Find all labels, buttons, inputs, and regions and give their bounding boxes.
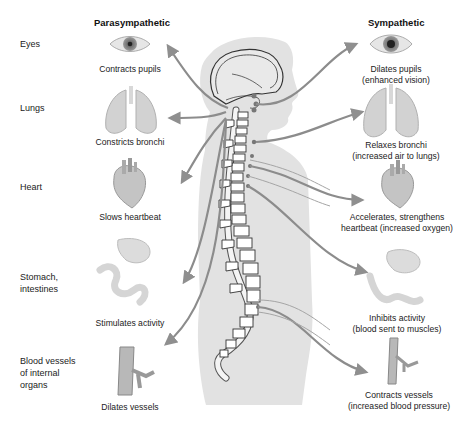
organ-label-blood-vessels: Blood vessels of internal organs xyxy=(20,355,76,391)
parasympathetic-caption-lungs: Constricts bronchi xyxy=(82,137,178,148)
parasympathetic-caption-stomach: Stimulates activity xyxy=(82,318,178,329)
blood-vessel-icon-sympathetic xyxy=(388,338,418,384)
organ-label-lungs: Lungs xyxy=(20,102,45,114)
eye-icon-parasympathetic xyxy=(110,37,150,52)
parasympathetic-caption-heart: Slows heartbeat xyxy=(82,212,178,223)
lungs-icon-parasympathetic xyxy=(106,86,157,133)
organ-label-stomach-intestines: Stomach, intestines xyxy=(20,271,58,295)
sympathetic-caption-eyes: Dilates pupils (enhanced vision) xyxy=(336,64,456,86)
heart-icon-parasympathetic xyxy=(114,158,146,208)
parasympathetic-caption-eyes: Contracts pupils xyxy=(82,64,178,75)
stomach-intestines-icon-sympathetic xyxy=(370,250,420,302)
blood-vessel-icon-parasympathetic xyxy=(118,347,154,395)
parasympathetic-caption-blood-vessels: Dilates vessels xyxy=(82,402,178,413)
eye-icon-sympathetic xyxy=(370,35,412,53)
organ-label-heart: Heart xyxy=(20,181,42,193)
lungs-icon-sympathetic xyxy=(364,84,419,137)
sympathetic-header: Sympathetic xyxy=(368,17,425,28)
sympathetic-caption-blood-vessels: Contracts vessels (increased blood press… xyxy=(330,390,468,412)
stomach-intestines-icon-parasympathetic xyxy=(100,239,150,303)
sympathetic-caption-lungs: Relaxes bronchi (increased air to lungs) xyxy=(330,140,462,162)
heart-icon-sympathetic xyxy=(382,160,414,208)
organ-label-eyes: Eyes xyxy=(20,38,40,50)
sympathetic-caption-stomach: Inhibits activity (blood sent to muscles… xyxy=(330,313,464,335)
parasympathetic-header: Parasympathetic xyxy=(94,17,170,28)
sympathetic-caption-heart: Accelerates, strengthens heartbeat (incr… xyxy=(326,212,468,234)
